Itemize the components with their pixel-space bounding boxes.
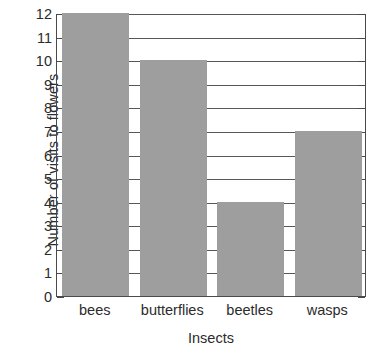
x-axis-tick-label-beetles: beetles xyxy=(226,302,273,318)
x-axis-title: Insects xyxy=(56,330,366,346)
y-axis-tick-label: 2 xyxy=(30,243,52,258)
y-axis-tick-right xyxy=(358,297,365,298)
y-axis-tick-label: 11 xyxy=(30,30,52,45)
x-axis-tick-label-butterflies: butterflies xyxy=(141,302,204,318)
bar-butterflies xyxy=(140,60,207,296)
y-axis-tick-label: 3 xyxy=(30,219,52,234)
bar-bees xyxy=(62,13,129,296)
y-axis-tick-label: 12 xyxy=(30,7,52,22)
bar-beetles xyxy=(217,202,284,296)
bar-chart: Number of visits to flowers 012345678910… xyxy=(0,0,376,364)
y-axis-tick-label: 0 xyxy=(30,290,52,305)
y-axis-tick-left xyxy=(57,297,64,298)
y-axis-tick-label: 8 xyxy=(30,101,52,116)
bar-wasps xyxy=(295,131,362,296)
bars-layer xyxy=(57,14,365,296)
y-axis-tick-labels: 0123456789101112 xyxy=(30,14,52,297)
plot-area xyxy=(56,14,366,297)
y-axis-tick-label: 5 xyxy=(30,172,52,187)
y-axis-tick-label: 6 xyxy=(30,148,52,163)
y-axis-tick-label: 7 xyxy=(30,125,52,140)
y-axis-tick-label: 10 xyxy=(30,54,52,69)
x-axis-tick-label-wasps: wasps xyxy=(307,302,348,318)
y-axis-tick-label: 4 xyxy=(30,195,52,210)
y-axis-tick-label: 1 xyxy=(30,266,52,281)
x-axis-tick-labels: beesbutterfliesbeetleswasps xyxy=(56,302,366,324)
y-axis-tick-label: 9 xyxy=(30,78,52,93)
x-axis-tick-label-bees: bees xyxy=(79,302,110,318)
